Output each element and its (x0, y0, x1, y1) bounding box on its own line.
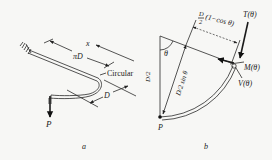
caption-b: b (204, 142, 208, 151)
shear-leader (236, 68, 242, 78)
straight-beam (28, 50, 98, 81)
diagram-canvas: P πD x Circular D a (0, 0, 272, 160)
shear-point-circle (232, 64, 236, 68)
frac-numerator: D (198, 10, 204, 17)
svg-text:D/2: D/2 (144, 71, 152, 83)
shear-label: V(θ) (238, 79, 252, 88)
load-p-label: P (45, 119, 52, 129)
d-label: D (103, 91, 110, 100)
one-minus-cos-dimension: D 2 (1−cos θ) (186, 10, 240, 62)
theta-label: θ (164, 49, 168, 58)
panel-b: θ D/2 P D/2 sin θ D 2 (1−cos θ) (144, 10, 260, 151)
fixed-support-hatch (20, 42, 31, 54)
torque-arrow (240, 22, 248, 58)
load-point (158, 115, 162, 119)
pi-d-label: πD (73, 52, 83, 61)
load-p-label-b: P (157, 123, 163, 132)
torque-label: T(θ) (243, 10, 257, 19)
one-minus-cos-label: (1−cos θ) (205, 12, 236, 28)
radius-label: D/2 (144, 71, 152, 83)
figure: P πD x Circular D a (0, 0, 272, 160)
frac-denominator: 2 (199, 18, 203, 25)
circular-arc-beam (49, 78, 102, 104)
caption-a: a (82, 142, 86, 151)
circular-label: Circular (107, 69, 134, 78)
moment-arrow (218, 59, 234, 63)
x-label: x (85, 39, 90, 48)
arc-beam-segment (160, 66, 236, 120)
panel-a: P πD x Circular D a (20, 39, 136, 151)
moment-label: M(θ) (243, 63, 260, 72)
x-axis-indicator: x (85, 39, 134, 61)
circular-leader (100, 73, 106, 75)
